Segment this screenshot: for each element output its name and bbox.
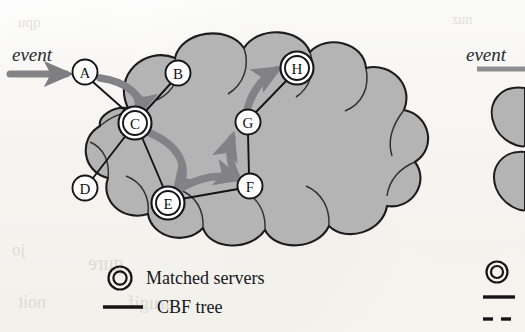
event-label-left: event xyxy=(12,44,52,66)
event-label-right: event xyxy=(466,44,506,66)
node-F-label: F xyxy=(246,179,254,195)
node-E-label: E xyxy=(163,196,172,212)
node-A[interactable]: A xyxy=(73,60,98,85)
legend-matched-servers-label: Matched servers xyxy=(146,268,264,289)
node-F[interactable]: F xyxy=(238,174,263,199)
node-A-label: A xyxy=(80,65,91,81)
right-legend-matched-servers-icon xyxy=(487,262,508,283)
left-legend-symbols xyxy=(103,267,143,308)
figure-page: qpu nuz jo gure noit arugif xyxy=(0,0,525,332)
node-G[interactable]: G xyxy=(236,110,261,135)
node-E[interactable]: E xyxy=(152,187,185,220)
right-figure-partial xyxy=(477,69,525,319)
legend-matched-servers-icon xyxy=(109,267,132,290)
node-C[interactable]: C xyxy=(119,107,152,140)
node-H[interactable]: H xyxy=(281,52,314,85)
right-cloud-lobe-bottom xyxy=(494,152,525,211)
right-cloud-lobe-top xyxy=(492,87,525,146)
node-B[interactable]: B xyxy=(166,61,191,86)
node-D[interactable]: D xyxy=(73,176,98,201)
edge-F-G xyxy=(248,133,249,175)
legend-cbf-tree-label: CBF tree xyxy=(157,297,223,318)
node-B-label: B xyxy=(173,66,183,82)
node-D-label: D xyxy=(80,181,91,197)
node-G-label: G xyxy=(243,115,254,131)
node-H-label: H xyxy=(292,61,303,77)
node-C-label: C xyxy=(130,116,140,132)
